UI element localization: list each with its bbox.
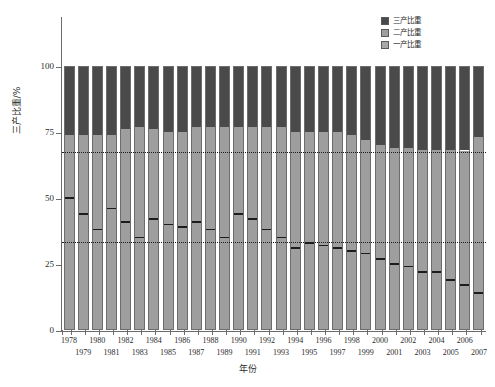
bar-divider-primary-secondary	[191, 221, 202, 223]
x-tick-mark-1989	[226, 330, 227, 335]
bar-segment-secondary	[389, 148, 400, 264]
bar-segment-secondary	[417, 150, 428, 271]
upper-reference	[62, 152, 486, 153]
bar-segment-secondary	[177, 132, 188, 227]
bar-divider-primary-secondary	[431, 271, 442, 273]
legend-label-tertiary: 三产比重	[393, 15, 421, 26]
bar-divider-primary-secondary	[332, 247, 343, 249]
bar-1978	[64, 66, 75, 330]
x-tick-mark-2005	[452, 330, 453, 335]
bar-segment-tertiary	[375, 66, 386, 145]
bar-segment-primary	[403, 267, 414, 330]
bar-segment-tertiary	[106, 66, 117, 135]
x-tick-mark-1998	[353, 330, 354, 335]
bar-segment-primary	[219, 238, 230, 330]
bar-2000	[375, 66, 386, 330]
bar-segment-primary	[332, 248, 343, 330]
bar-segment-primary	[78, 214, 89, 330]
chart-legend: 三产比重 二产比重 一产比重	[381, 15, 421, 51]
bar-divider-primary-secondary	[106, 208, 117, 210]
bar-divider-primary-secondary	[346, 250, 357, 252]
bar-segment-tertiary	[403, 66, 414, 148]
bar-1981	[106, 66, 117, 330]
legend-label-secondary: 二产比重	[393, 27, 421, 38]
bar-divider-primary-secondary	[403, 266, 414, 268]
bar-segment-primary	[120, 222, 131, 330]
x-tick-mark-1988	[212, 330, 213, 335]
bar-segment-secondary	[459, 151, 470, 286]
y-tick-mark-50	[56, 199, 61, 200]
x-tick-mark-1993	[283, 330, 284, 335]
bar-segment-secondary	[247, 127, 258, 219]
y-tick-mark-75	[56, 133, 61, 134]
bar-divider-primary-secondary	[92, 229, 103, 231]
bar-divider-primary-secondary	[148, 218, 159, 220]
x-tick-mark-1992	[269, 330, 270, 335]
bar-divider-primary-secondary	[261, 229, 272, 231]
bar-segment-secondary	[403, 148, 414, 267]
x-tick-mark-1986	[184, 330, 185, 335]
bar-1996	[318, 66, 329, 330]
bar-divider-primary-secondary	[134, 237, 145, 239]
bar-2004	[431, 66, 442, 330]
bar-divider-primary-secondary	[276, 237, 287, 239]
bar-segment-secondary	[318, 132, 329, 246]
bar-segment-secondary	[148, 129, 159, 219]
bar-segment-primary	[459, 285, 470, 330]
bar-1986	[177, 66, 188, 330]
x-tick-mark-2004	[438, 330, 439, 335]
bar-segment-primary	[247, 219, 258, 330]
x-tick-mark-1981	[113, 330, 114, 335]
bar-divider-primary-secondary	[120, 221, 131, 223]
bar-2001	[389, 66, 400, 330]
bar-2006	[459, 66, 470, 330]
bar-segment-tertiary	[134, 66, 145, 127]
x-tick-mark-start	[62, 330, 63, 335]
bars-layer	[62, 66, 486, 330]
bar-2007	[473, 66, 484, 330]
bar-segment-secondary	[92, 135, 103, 230]
bar-2003	[417, 66, 428, 330]
bar-segment-primary	[233, 214, 244, 330]
bar-1999	[360, 66, 371, 330]
bar-segment-tertiary	[473, 66, 484, 137]
x-tick-mark-1991	[254, 330, 255, 335]
legend-item-primary: 一产比重	[381, 39, 421, 50]
x-tick-mark-1985	[170, 330, 171, 335]
bar-segment-primary	[92, 230, 103, 330]
bar-segment-tertiary	[120, 66, 131, 129]
bar-1990	[233, 66, 244, 330]
bar-segment-tertiary	[276, 66, 287, 127]
x-tick-mark-1980	[99, 330, 100, 335]
y-tick-mark-100	[56, 67, 61, 68]
bar-segment-primary	[64, 198, 75, 330]
bar-segment-primary	[445, 280, 456, 330]
bar-segment-secondary	[261, 127, 272, 230]
bar-segment-secondary	[445, 150, 456, 279]
bar-segment-tertiary	[148, 66, 159, 129]
bar-segment-tertiary	[290, 66, 301, 132]
bar-divider-primary-secondary	[219, 237, 230, 239]
bar-1997	[332, 66, 343, 330]
bar-segment-secondary	[233, 127, 244, 214]
bar-1991	[247, 66, 258, 330]
bar-segment-tertiary	[163, 66, 174, 132]
bar-segment-tertiary	[346, 66, 357, 135]
legend-item-tertiary: 三产比重	[381, 15, 421, 26]
legend-item-secondary: 二产比重	[381, 27, 421, 38]
lower-reference	[62, 242, 486, 243]
bar-1982	[120, 66, 131, 330]
bar-segment-primary	[375, 259, 386, 330]
bar-segment-tertiary	[417, 66, 428, 150]
bar-1983	[134, 66, 145, 330]
bar-segment-tertiary	[304, 66, 315, 132]
bar-segment-tertiary	[318, 66, 329, 132]
bar-divider-primary-secondary	[318, 245, 329, 247]
y-tick-25: 25	[0, 260, 54, 269]
bar-segment-secondary	[219, 127, 230, 238]
x-tick-mark-2002	[410, 330, 411, 335]
bar-segment-primary	[431, 272, 442, 330]
bar-segment-tertiary	[233, 66, 244, 127]
bar-divider-primary-secondary	[473, 292, 484, 294]
bar-divider-primary-secondary	[177, 226, 188, 228]
